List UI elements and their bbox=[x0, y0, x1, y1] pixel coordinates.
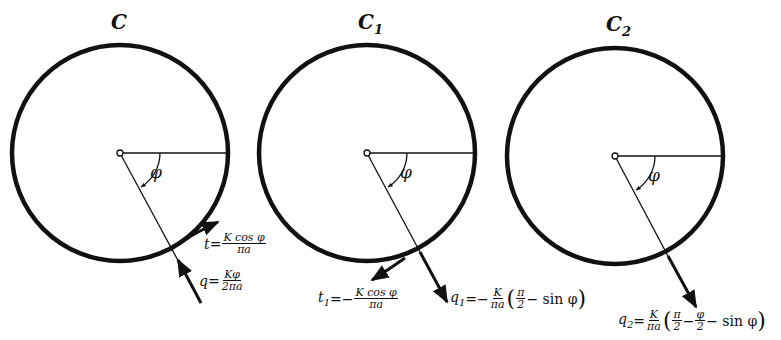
tail-term: − sin φ bbox=[706, 313, 757, 329]
q-symbol: q1 bbox=[450, 289, 465, 308]
denominator: πa bbox=[646, 321, 662, 332]
angle-label-c: φ bbox=[150, 162, 162, 182]
inner-fraction-2: φ 2 bbox=[695, 309, 705, 332]
denominator: 2 bbox=[516, 299, 525, 310]
t-formula-c: t = K cos φ πa bbox=[204, 232, 267, 255]
equals-sign: = bbox=[330, 291, 342, 307]
equals-sign: = bbox=[633, 313, 645, 329]
angle-label-c2: φ bbox=[648, 165, 660, 185]
fraction: Kφ 2πa bbox=[221, 269, 244, 292]
equals-sign: = bbox=[465, 291, 477, 307]
denominator: 2πa bbox=[221, 281, 244, 292]
title-c2: C2 bbox=[606, 12, 631, 39]
denominator: πa bbox=[236, 244, 252, 255]
diagram-c2 bbox=[507, 48, 723, 307]
title-c: C bbox=[111, 10, 127, 34]
q-symbol: q bbox=[199, 273, 208, 289]
title-c1: C1 bbox=[358, 10, 383, 37]
title-text: C bbox=[606, 12, 622, 36]
denominator: πa bbox=[490, 299, 506, 310]
q2-force-arrow bbox=[668, 256, 696, 307]
close-paren: ) bbox=[578, 288, 587, 310]
angle-radius bbox=[616, 158, 668, 256]
title-subscript: 1 bbox=[374, 22, 383, 37]
q-symbol: q2 bbox=[618, 311, 633, 330]
center-point bbox=[117, 150, 123, 156]
inner-fraction: π 2 bbox=[672, 309, 681, 332]
angle-label-c1: φ bbox=[400, 162, 412, 182]
minus-sign: − bbox=[477, 291, 489, 307]
title-text: C bbox=[111, 10, 127, 34]
close-paren: ) bbox=[757, 310, 766, 332]
q1-force-arrow bbox=[420, 252, 447, 302]
q-force-arrow bbox=[178, 260, 201, 303]
minus-sign: − bbox=[342, 291, 354, 307]
t-symbol: t1 bbox=[318, 289, 330, 308]
q-formula-c: q = Kφ 2πa bbox=[199, 269, 245, 292]
angle-radius bbox=[368, 155, 420, 252]
fraction: K cos φ πa bbox=[354, 287, 397, 310]
tail-term: − sin φ bbox=[526, 291, 577, 307]
equals-sign: = bbox=[210, 236, 222, 252]
minus-sign: − bbox=[683, 313, 695, 329]
t-formula-c1: t1 = − K cos φ πa bbox=[318, 287, 399, 310]
q-formula-c1: q1 = − K πa ( π 2 − sin φ ) bbox=[450, 287, 586, 310]
denominator: 2 bbox=[696, 321, 705, 332]
q-formula-c2: q2 = K πa ( π 2 − φ 2 − sin φ ) bbox=[618, 309, 766, 332]
symbol-base: q bbox=[618, 311, 627, 327]
symbol-base: q bbox=[450, 289, 459, 305]
open-paren: ( bbox=[507, 288, 516, 310]
diagram-c1 bbox=[259, 45, 475, 302]
denominator: 2 bbox=[673, 321, 682, 332]
fraction: K πa bbox=[646, 309, 662, 332]
title-subscript: 2 bbox=[622, 24, 631, 39]
center-point bbox=[612, 153, 618, 159]
title-text: C bbox=[358, 10, 374, 34]
fraction: K cos φ πa bbox=[222, 232, 265, 255]
equals-sign: = bbox=[208, 273, 220, 289]
inner-fraction: π 2 bbox=[516, 287, 525, 310]
fraction: K πa bbox=[490, 287, 506, 310]
open-paren: ( bbox=[663, 310, 672, 332]
diagram-c bbox=[12, 45, 228, 303]
center-point bbox=[364, 150, 370, 156]
denominator: πa bbox=[368, 299, 384, 310]
